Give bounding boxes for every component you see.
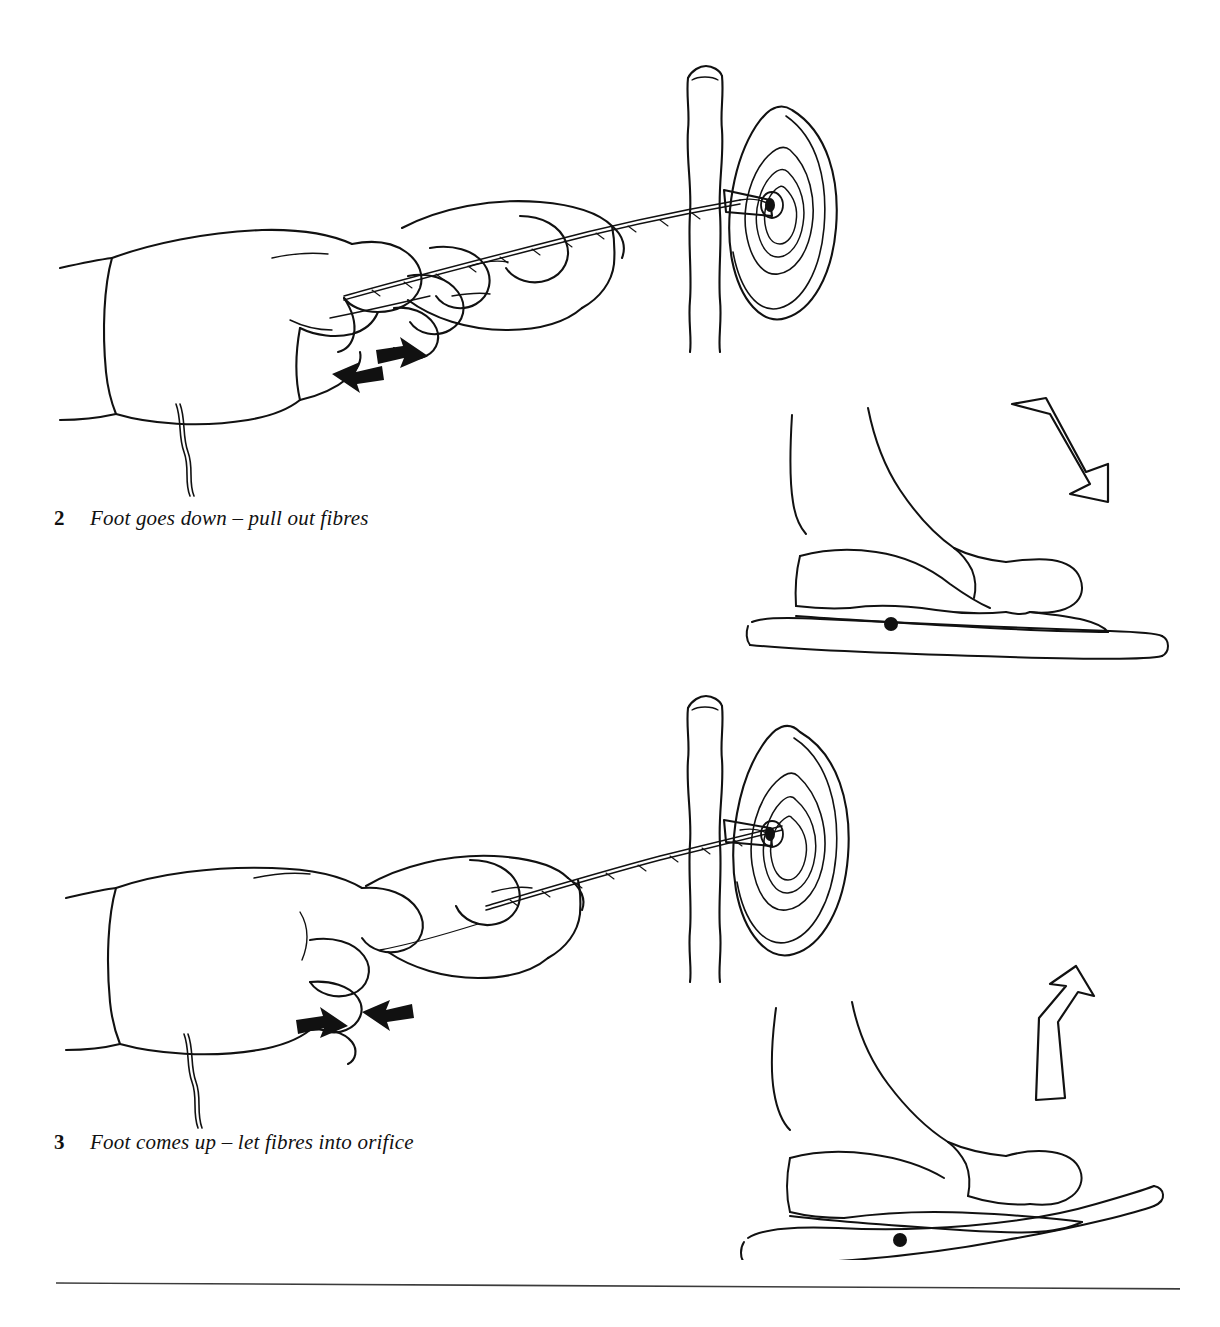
sandal-toe-strap-2 xyxy=(948,1142,1082,1205)
foot-and-ankle-2 xyxy=(772,1002,1006,1156)
step-3-panel xyxy=(0,660,1220,1260)
foot-and-ankle xyxy=(790,408,1006,562)
footer-rule xyxy=(56,1282,1180,1289)
step-3-caption: 3Foot comes up – let fibres into orifice xyxy=(54,1132,414,1153)
step-2-foot-figure xyxy=(0,0,1220,660)
sandal-toe-strap xyxy=(954,548,1082,614)
step-2-text: Foot goes down – pull out fibres xyxy=(90,508,369,529)
book-page: 2Foot goes down – pull out fibres xyxy=(0,0,1220,1327)
arrow-up-outline-shape xyxy=(1036,966,1094,1100)
treadle-pivot-dot xyxy=(884,617,898,631)
treadle-pivot-dot-2 xyxy=(893,1233,907,1247)
sandal-heel-wedge-2 xyxy=(787,1152,944,1218)
step-2-caption: 2Foot goes down – pull out fibres xyxy=(54,508,369,529)
treadle-bar-2 xyxy=(741,1186,1163,1260)
step-3-foot-figure xyxy=(0,660,1220,1260)
treadle-bar xyxy=(747,617,1168,659)
step-3-number: 3 xyxy=(54,1132,90,1153)
arrow-down-outline-icon xyxy=(1012,398,1108,502)
step-2-panel: 2Foot goes down – pull out fibres xyxy=(0,0,1220,660)
step-3-text: Foot comes up – let fibres into orifice xyxy=(90,1132,414,1153)
step-2-number: 2 xyxy=(54,508,90,529)
